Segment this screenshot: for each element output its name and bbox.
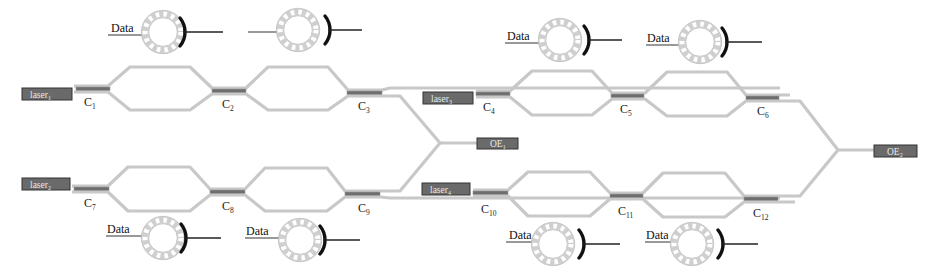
coupler-label-c2: C2 — [222, 97, 234, 113]
laser-1: laser1 — [22, 88, 72, 101]
coupler-c2 — [212, 89, 246, 93]
coupler-label-c6: C6 — [757, 104, 769, 120]
coupler-label-c10: C10 — [481, 202, 497, 218]
coupler-label-c11: C11 — [618, 204, 633, 220]
coupler-c4 — [476, 92, 510, 96]
coupler-label-c3: C3 — [358, 99, 370, 115]
coupler-c5 — [611, 94, 644, 98]
ring-modulator-top-3: Data — [505, 18, 622, 61]
coupler-label-c7: C7 — [84, 196, 96, 212]
coupler-c9 — [345, 192, 380, 196]
coupler-label-c9: C9 — [358, 201, 370, 217]
svg-text:Data: Data — [507, 29, 530, 43]
coupler-label-c12: C12 — [753, 206, 769, 222]
coupler-c6 — [746, 96, 779, 100]
laser-2: laser2 — [22, 178, 70, 191]
ring-modulator-top-1: Data — [108, 10, 223, 53]
svg-text:laser1: laser1 — [30, 90, 51, 101]
ring-modulator-top-2 — [248, 8, 362, 51]
svg-text:laser3: laser3 — [431, 94, 452, 105]
svg-text:laser4: laser4 — [430, 185, 451, 196]
svg-text:Data: Data — [111, 21, 134, 35]
coupler-label-c8: C8 — [222, 199, 234, 215]
svg-text:laser2: laser2 — [30, 180, 51, 191]
svg-text:Data: Data — [107, 222, 130, 236]
ring-modulator-bottom-4: Data — [645, 222, 758, 265]
laser-3: laser3 — [423, 92, 473, 105]
coupler-label-c4: C4 — [483, 100, 495, 116]
oe-receiver-2: OE2 — [874, 145, 917, 158]
laser-4: laser4 — [422, 183, 470, 196]
waveguide-chain-d-upper — [473, 150, 838, 196]
oe-receiver-1: OE1 — [477, 138, 518, 150]
coupler-c12 — [744, 197, 778, 201]
coupler-label-c1: C1 — [84, 95, 96, 111]
ring-modulator-bottom-3: Data — [506, 222, 620, 265]
coupler-c3 — [347, 91, 382, 95]
svg-text:Data: Data — [246, 224, 269, 238]
waveguide-chain-c-upper — [72, 143, 440, 191]
waveguide-chain-a-lower — [74, 92, 440, 143]
ring-modulator-top-4: Data — [646, 20, 762, 63]
waveguide-chain-b-lower — [476, 97, 838, 150]
photonic-circuit-diagram: C1 C2 C3 C4 C5 C6 C7 C8 C9 C10 C11 C12 l… — [0, 0, 935, 279]
coupler-c8 — [210, 190, 245, 194]
ring-modulator-bottom-2: Data — [245, 218, 360, 261]
svg-text:Data: Data — [509, 228, 532, 242]
coupler-c7 — [74, 187, 109, 191]
coupler-label-c5: C5 — [620, 102, 632, 118]
svg-text:Data: Data — [647, 31, 670, 45]
oe-receivers: OE1 OE2 — [477, 138, 917, 158]
ring-modulator-bottom-1: Data — [106, 216, 221, 259]
svg-text:Data: Data — [646, 228, 669, 242]
waveguide-chain-b-upper — [476, 71, 790, 95]
coupler-c11 — [610, 194, 643, 198]
coupler-c10 — [473, 191, 508, 195]
coupler-c1 — [76, 87, 110, 91]
